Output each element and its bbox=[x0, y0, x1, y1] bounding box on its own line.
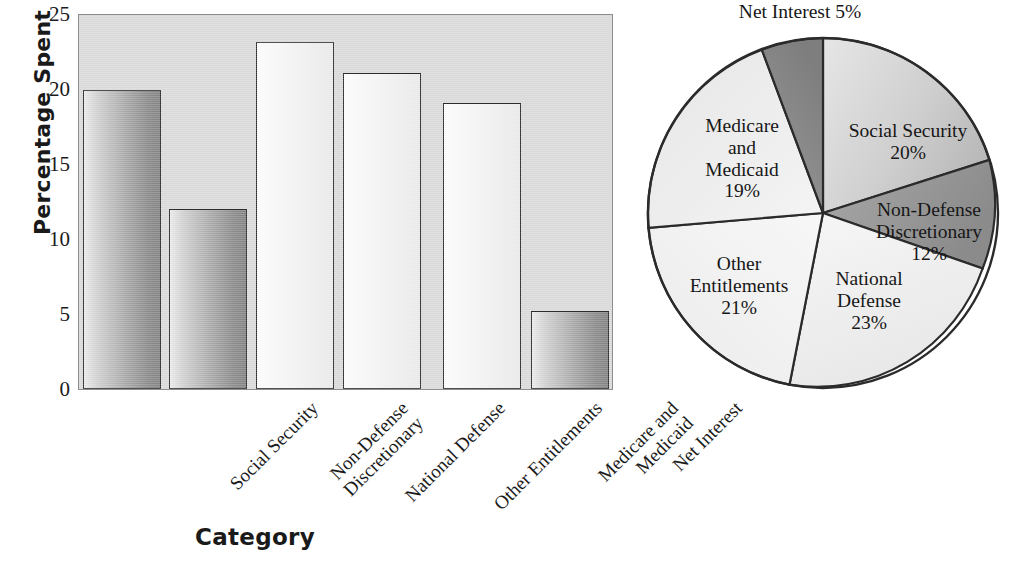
bar-chart-y-axis-title: Percentage Spent bbox=[30, 3, 55, 243]
y-tick-20: 20 bbox=[28, 79, 70, 100]
pie-chart: Net Interest 5% bbox=[640, 0, 1028, 568]
bar-non-defense-discretionary[interactable] bbox=[169, 209, 247, 389]
pie-label-social-security: Social Security 20% bbox=[838, 120, 978, 164]
bar-medicare-and-medicaid[interactable] bbox=[443, 103, 521, 389]
y-tick-10: 10 bbox=[28, 229, 70, 250]
figure-root: Percentage Spent 25 20 15 10 5 0 Social … bbox=[0, 0, 1028, 568]
bar-other-entitlements[interactable] bbox=[343, 73, 421, 389]
pie-area: Social Security 20% Non-Defense Discreti… bbox=[646, 36, 1000, 390]
pie-label-national-defense: National Defense 23% bbox=[814, 268, 924, 333]
bar-national-defense[interactable] bbox=[256, 42, 334, 389]
pie-label-medicare-and-medicaid: Medicare and Medicaid 19% bbox=[672, 115, 812, 202]
bar-chart: Percentage Spent 25 20 15 10 5 0 Social … bbox=[0, 0, 640, 568]
pie-label-non-defense-discretionary: Non-Defense Discretionary 12% bbox=[854, 199, 1004, 264]
y-tick-5: 5 bbox=[28, 304, 70, 325]
bar-net-interest[interactable] bbox=[531, 311, 609, 389]
y-tick-15: 15 bbox=[28, 154, 70, 175]
bar-plot-area bbox=[78, 14, 613, 390]
bar-chart-x-axis-title: Category bbox=[195, 524, 315, 550]
y-tick-25: 25 bbox=[28, 4, 70, 25]
bar-social-security[interactable] bbox=[83, 90, 161, 389]
pie-label-other-entitlements: Other Entitlements 21% bbox=[664, 253, 814, 318]
y-tick-0: 0 bbox=[28, 379, 70, 400]
pie-outside-label-net-interest: Net Interest 5% bbox=[670, 1, 930, 23]
